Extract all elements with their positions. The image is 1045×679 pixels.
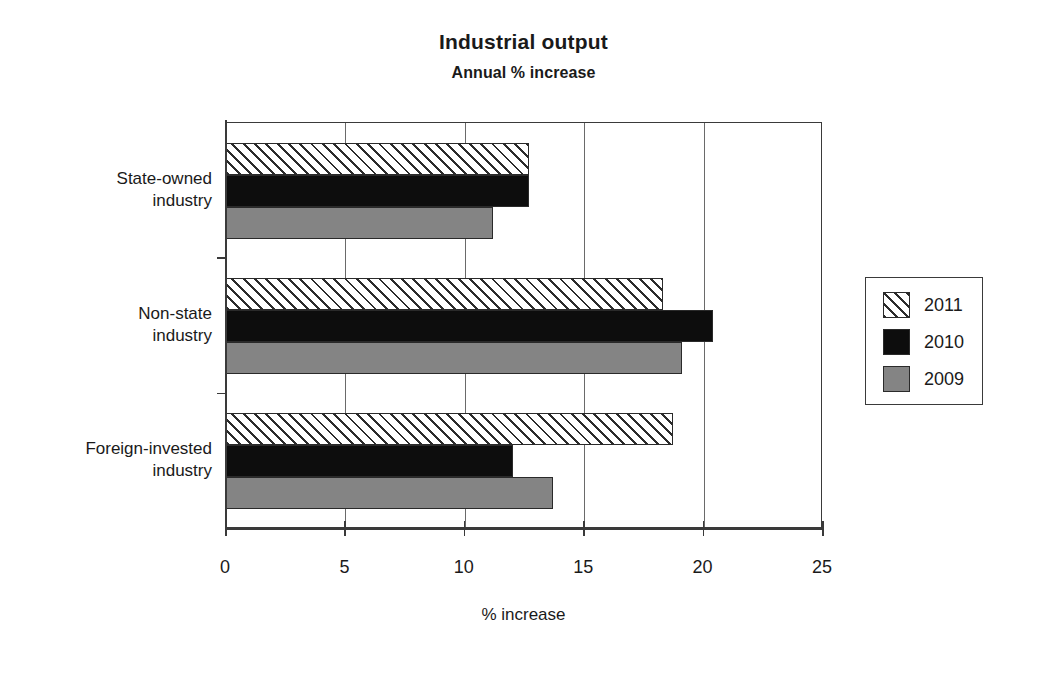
x-tick-label-25: 25 [792,557,852,578]
chart-figure: Industrial output Annual % increase % in… [0,0,1045,679]
y-tick-mark-2 [217,393,226,395]
category-label-3: Foreign-investedindustry [0,438,212,482]
bar-2009-2 [226,342,682,374]
legend-label-2011: 2011 [924,295,963,316]
legend-label-2009: 2009 [924,369,964,390]
category-label-line: Foreign-invested [0,438,212,460]
legend-item-2011[interactable]: 2011 [883,292,963,318]
legend-item-2010[interactable]: 2010 [883,329,964,355]
category-label-line: State-owned [0,168,212,190]
x-tick-mark-15 [583,521,585,536]
chart-title: Industrial output [225,30,822,54]
bar-2011-2 [226,278,663,310]
chart-legend: 2011 2010 2009 [865,277,983,405]
x-tick-label-10: 10 [434,557,494,578]
legend-swatch-2011 [883,292,910,318]
x-tick-label-20: 20 [673,557,733,578]
x-axis-title: % increase [225,605,822,625]
bar-2009-1 [226,207,493,239]
plot-area [225,122,822,528]
bar-2010-3 [226,445,513,477]
bar-2010-2 [226,310,713,342]
y-tick-mark-1 [217,257,226,259]
x-tick-label-5: 5 [314,557,374,578]
x-tick-mark-0 [225,521,227,536]
bar-2011-3 [226,413,673,445]
bar-2010-1 [226,175,529,207]
chart-subtitle: Annual % increase [225,64,822,82]
category-label-1: State-ownedindustry [0,168,212,212]
legend-swatch-2010 [883,329,910,355]
x-tick-mark-5 [344,521,346,536]
legend-swatch-2009 [883,366,910,392]
bar-2011-1 [226,143,529,175]
legend-label-2010: 2010 [924,332,964,353]
legend-item-2009[interactable]: 2009 [883,366,964,392]
x-axis-line [225,528,823,530]
x-tick-mark-25 [822,521,824,536]
y-axis-line [225,120,227,530]
category-label-line: industry [0,190,212,212]
x-tick-mark-20 [703,521,705,536]
x-tick-label-0: 0 [195,557,255,578]
bar-2009-3 [226,477,553,509]
category-label-line: industry [0,325,212,347]
x-tick-mark-10 [464,521,466,536]
category-label-2: Non-stateindustry [0,303,212,347]
x-tick-label-15: 15 [553,557,613,578]
category-label-line: industry [0,460,212,482]
category-label-line: Non-state [0,303,212,325]
